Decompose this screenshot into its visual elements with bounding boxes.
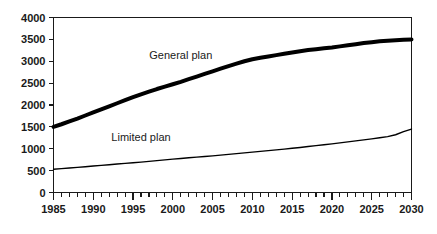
series-label-limited-plan: Limited plan [111, 131, 170, 143]
x-axis-tick-labels: 1985199019952000200520102015202020252030 [41, 203, 423, 215]
y-axis-tick-labels: 05001000150020002500300035004000 [21, 12, 45, 199]
x-tick-label: 2025 [359, 203, 383, 215]
x-tick-label: 2000 [161, 203, 185, 215]
series-line-limited-plan [54, 129, 412, 169]
x-tick-label: 2015 [280, 203, 304, 215]
y-tick-label: 2000 [21, 99, 45, 111]
y-tick-label: 1500 [21, 121, 45, 133]
x-tick-label: 1995 [121, 203, 145, 215]
x-tick-label: 2020 [320, 203, 344, 215]
line-chart: 05001000150020002500300035004000 1985199… [0, 0, 437, 234]
y-tick-label: 3500 [21, 33, 45, 45]
data-series [54, 39, 412, 169]
x-tick-label: 2010 [240, 203, 264, 215]
y-tick-label: 1000 [21, 143, 45, 155]
x-tick-label: 2005 [200, 203, 224, 215]
x-axis-ticks [54, 193, 412, 200]
series-line-general-plan [54, 39, 412, 127]
series-annotations: General planLimited plan [111, 49, 212, 143]
y-axis-ticks [49, 18, 54, 193]
x-tick-label: 1990 [81, 203, 105, 215]
y-tick-label: 4000 [21, 12, 45, 24]
y-tick-label: 2500 [21, 77, 45, 89]
y-tick-label: 500 [27, 165, 45, 177]
series-label-general-plan: General plan [149, 49, 212, 61]
chart-canvas: 05001000150020002500300035004000 1985199… [0, 0, 437, 234]
y-tick-label: 0 [39, 187, 45, 199]
y-tick-label: 3000 [21, 55, 45, 67]
x-tick-label: 2030 [399, 203, 423, 215]
x-tick-label: 1985 [41, 203, 65, 215]
